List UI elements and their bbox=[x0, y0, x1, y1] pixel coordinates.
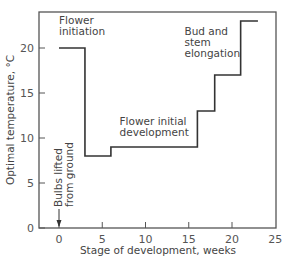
y-tick-label: 0 bbox=[27, 222, 34, 235]
x-tick-label: 0 bbox=[56, 233, 63, 246]
svg-text:initiation: initiation bbox=[59, 25, 105, 37]
y-axis: 05101520 bbox=[20, 42, 45, 235]
y-axis-label: Optimal temperature, °C bbox=[4, 55, 16, 185]
svg-text:elongation: elongation bbox=[184, 47, 240, 59]
y-tick-label: 20 bbox=[20, 42, 34, 55]
annotations: FlowerinitiationFlower initialdevelopmen… bbox=[52, 14, 240, 228]
y-tick-label: 10 bbox=[20, 132, 34, 145]
y-tick-label: 5 bbox=[27, 177, 34, 190]
annotation: Flowerinitiation bbox=[59, 14, 105, 37]
annotation-bulbs-lifted: Bulbs liftedfrom ground bbox=[52, 142, 75, 207]
x-axis: 0510152025 bbox=[56, 222, 283, 246]
step-chart: 05101520 0510152025 FlowerinitiationFlow… bbox=[0, 0, 290, 260]
svg-text:from ground: from ground bbox=[63, 142, 75, 207]
y-tick-label: 15 bbox=[20, 87, 34, 100]
annotation: Flower initialdevelopment bbox=[120, 115, 189, 138]
x-axis-label: Stage of development, weeks bbox=[80, 244, 236, 256]
svg-text:development: development bbox=[120, 126, 189, 138]
annotation: Bud andstemelongation bbox=[184, 25, 240, 59]
x-tick-label: 25 bbox=[268, 233, 282, 246]
